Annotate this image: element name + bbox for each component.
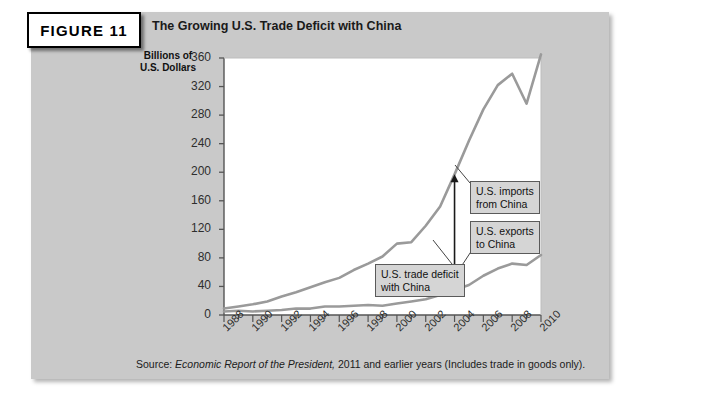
- source-note: Source: Economic Report of the President…: [136, 358, 585, 370]
- callout-imports-line1: U.S. imports: [476, 185, 534, 198]
- callout-exports: U.S. exportsto China: [470, 221, 540, 254]
- callout-exports-line1: U.S. exports: [476, 225, 534, 238]
- y-axis-title: Billions of U.S. Dollars: [136, 50, 200, 73]
- y-tick-label: 160: [171, 193, 211, 207]
- figure-number-badge: FIGURE 11: [27, 12, 141, 48]
- source-suffix: 2011 and earlier years (Includes trade i…: [335, 358, 585, 370]
- callout-deficit: U.S. trade deficitwith China: [375, 264, 465, 297]
- figure-number-label: FIGURE 11: [40, 22, 128, 39]
- y-axis-title-text: Billions of U.S. Dollars: [140, 50, 196, 73]
- y-tick-label: 200: [171, 164, 211, 178]
- figure-root: FIGURE 11 The Growing U.S. Trade Deficit…: [0, 0, 727, 406]
- figure-title: The Growing U.S. Trade Deficit with Chin…: [152, 19, 401, 33]
- y-tick-label: 0: [171, 307, 211, 321]
- y-tick-label: 280: [171, 107, 211, 121]
- callout-deficit-line2: with China: [381, 281, 459, 294]
- y-tick-label: 40: [171, 278, 211, 292]
- y-tick-label: 320: [171, 79, 211, 93]
- y-tick-label: 120: [171, 221, 211, 235]
- callout-exports-line2: to China: [476, 238, 534, 251]
- source-prefix: Source:: [136, 358, 175, 370]
- callout-deficit-line1: U.S. trade deficit: [381, 268, 459, 281]
- callout-imports-line2: from China: [476, 198, 534, 211]
- y-tick-label: 80: [171, 250, 211, 264]
- chart-svg: [0, 0, 727, 406]
- y-tick-label: 240: [171, 136, 211, 150]
- source-italic: Economic Report of the President,: [175, 358, 335, 370]
- callout-imports: U.S. importsfrom China: [470, 181, 540, 214]
